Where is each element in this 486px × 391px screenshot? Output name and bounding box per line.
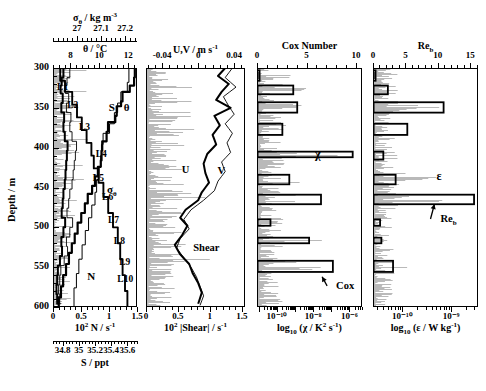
reb-minor-tick <box>444 65 445 68</box>
sigma-theta-minor-tick <box>96 38 97 41</box>
sigma-theta-minor-tick <box>135 38 136 41</box>
y-tick <box>53 211 57 212</box>
shear-minor-tick <box>159 307 160 310</box>
y-tick <box>53 124 57 125</box>
epsilon-minor-tick <box>388 307 389 310</box>
y-tick <box>53 219 57 220</box>
sigma-theta-minor-tick <box>58 38 59 41</box>
shear-minor-tick <box>203 307 204 310</box>
sigma-theta-minor-tick <box>106 38 107 41</box>
plot-frame-cox <box>257 68 362 307</box>
S-minor-tick <box>82 341 83 344</box>
sigma-theta-minor-tick <box>82 38 83 41</box>
S-tick-label: 35.6 <box>101 346 153 355</box>
y-tick <box>53 188 59 189</box>
chi-minor-tick <box>306 307 307 310</box>
y-tick-label: 450 <box>20 182 49 192</box>
S-minor-tick <box>98 341 99 344</box>
S-minor-tick <box>108 341 109 344</box>
theta-minor-tick <box>65 65 66 68</box>
chi-minor-tick <box>264 307 265 310</box>
y-tick <box>53 132 57 133</box>
epsilon-minor-tick <box>446 307 447 310</box>
theta-minor-tick <box>53 65 54 68</box>
theta-minor-tick <box>88 65 89 68</box>
uv-major-tick <box>162 63 163 68</box>
y-tick <box>53 100 57 101</box>
uv-minor-tick <box>148 65 149 68</box>
reb-major-tick <box>470 63 471 68</box>
theta-major-tick <box>128 63 129 68</box>
theta-minor-tick <box>117 65 118 68</box>
S-minor-tick <box>89 341 90 344</box>
sigma-theta-minor-tick <box>72 38 73 41</box>
S-minor-tick <box>72 341 73 344</box>
uv-major-tick <box>198 63 199 68</box>
y-tick <box>53 92 57 93</box>
epsilon-minor-tick <box>449 307 450 310</box>
N-minor-tick <box>98 307 99 310</box>
shear-minor-tick <box>172 307 173 310</box>
reb-major-tick <box>373 63 374 68</box>
S-minor-tick <box>101 341 102 344</box>
epsilon-minor-tick <box>432 307 433 310</box>
y-axis-title: Depth / m <box>6 178 17 222</box>
layer-label: L1 <box>49 83 77 93</box>
series-label: U <box>172 165 200 176</box>
S-minor-tick <box>66 341 67 344</box>
N-minor-tick <box>103 307 104 310</box>
cox-minor-tick <box>267 65 268 68</box>
series-label: Shear <box>192 243 220 254</box>
chi-minor-tick <box>360 307 361 310</box>
reb-minor-tick <box>399 65 400 68</box>
uv-minor-tick <box>191 65 192 68</box>
chi-minor-tick <box>300 307 301 310</box>
chi-minor-tick <box>322 307 323 310</box>
sigma-theta-major-tick <box>125 36 126 41</box>
epsilon-tick-label: 10⁻⁹ <box>429 312 473 321</box>
epsilon-minor-tick <box>440 307 441 310</box>
layer-label: L4 <box>87 150 115 160</box>
S-minor-tick <box>121 341 122 344</box>
shear-minor-tick <box>229 307 230 310</box>
chi-minor-tick <box>342 307 343 310</box>
series-label: V <box>207 166 235 177</box>
epsilon-minor-tick <box>395 307 396 310</box>
N-minor-tick <box>64 307 65 310</box>
epsilon-minor-tick <box>417 307 418 310</box>
N-minor-tick <box>120 307 121 310</box>
sigma-theta-minor-tick <box>67 38 68 41</box>
y-tick <box>53 164 57 165</box>
series-label: N <box>77 271 105 282</box>
chi-minor-tick <box>288 307 289 310</box>
S-minor-tick <box>69 341 70 344</box>
y-tick <box>53 195 57 196</box>
N-minor-tick <box>92 307 93 310</box>
cox-tick-label: 5 <box>281 51 333 60</box>
reb-minor-tick <box>431 65 432 68</box>
sigma-theta-minor-tick <box>63 38 64 41</box>
theta-minor-tick <box>123 65 124 68</box>
epsilon-minor-tick <box>400 307 401 310</box>
chi-minor-tick <box>337 307 338 310</box>
uv-minor-tick <box>177 65 178 68</box>
chi-minor-tick <box>355 307 356 310</box>
y-tick <box>53 156 57 157</box>
S-axis-title: S / ppt <box>13 358 177 368</box>
y-tick-label: 500 <box>20 221 49 231</box>
S-minor-tick <box>85 341 86 344</box>
cox-minor-tick <box>346 65 347 68</box>
reb-minor-tick <box>386 65 387 68</box>
shear-minor-tick <box>152 307 153 310</box>
S-minor-tick <box>76 341 77 344</box>
y-tick-label: 350 <box>20 102 49 112</box>
layer-label: L5 <box>84 174 112 184</box>
plot-frame-reb <box>373 68 478 307</box>
y-tick <box>53 275 57 276</box>
epsilon-minor-tick <box>398 307 399 310</box>
y-tick <box>53 172 57 173</box>
S-minor-tick <box>137 341 138 344</box>
y-tick <box>53 203 57 204</box>
S-minor-tick <box>105 341 106 344</box>
S-minor-tick <box>131 341 132 344</box>
